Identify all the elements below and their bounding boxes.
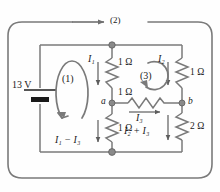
- battery-voltage-label: 13 V: [12, 80, 32, 90]
- loop-3-label: (3): [140, 71, 152, 81]
- resistor-top-middle: [106, 58, 118, 88]
- current-label-i2: I₂: [158, 54, 165, 64]
- resistor-label-bottom-middle: 1 Ω: [118, 124, 132, 134]
- resistor-bridge: [128, 98, 166, 108]
- resistor-bottom-right: [176, 113, 188, 140]
- loop-2-label: (2): [110, 16, 121, 25]
- node-a: [109, 100, 115, 106]
- resistor-bottom-middle: [106, 114, 118, 142]
- node-label-a: a: [101, 97, 106, 107]
- circuit-schematic-canvas: [0, 0, 220, 192]
- circuit-diagram-figure: 13 V (1) (2) (3) I₁ I₂ I₃ I₁ − I₃ I₂ + I…: [0, 0, 220, 192]
- battery-symbol: [24, 90, 56, 102]
- node-bottom-junction: [109, 149, 116, 156]
- resistor-label-bottom-right: 2 Ω: [190, 122, 204, 132]
- resistor-top-right: [176, 58, 188, 88]
- node-label-b: b: [188, 97, 193, 107]
- loop-1-arrow: [56, 61, 88, 118]
- node-top-junction: [109, 42, 115, 48]
- resistor-label-top-right: 1 Ω: [190, 68, 204, 78]
- current-label-i1: I₁: [88, 54, 95, 64]
- current-label-i1-minus-i3: I₁ − I₃: [55, 135, 80, 145]
- node-b: [179, 100, 185, 106]
- resistor-label-bridge: 1 Ω: [118, 88, 132, 98]
- current-label-i3: I₃: [136, 113, 143, 123]
- resistor-label-top-middle: 1 Ω: [118, 58, 132, 68]
- loop-1-label: (1): [62, 74, 74, 84]
